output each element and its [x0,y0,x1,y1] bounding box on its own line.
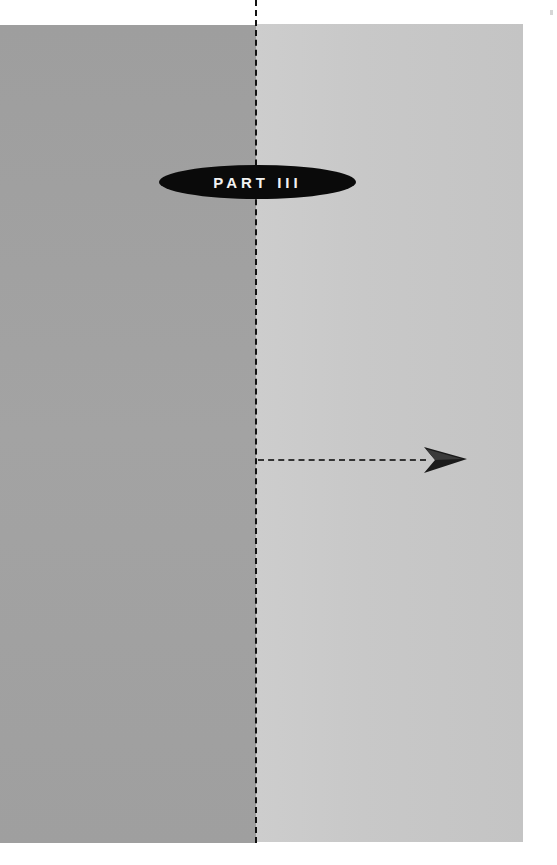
part-title-page: PART III [0,0,557,865]
corner-mark [550,10,553,15]
arrow-right-icon [422,445,468,475]
dashed-divider-line [255,0,257,843]
part-badge: PART III [159,165,356,199]
part-label: PART III [213,174,301,191]
right-gray-panel [256,24,523,842]
left-gray-panel [0,25,256,843]
dashed-arrow-line [258,459,426,461]
